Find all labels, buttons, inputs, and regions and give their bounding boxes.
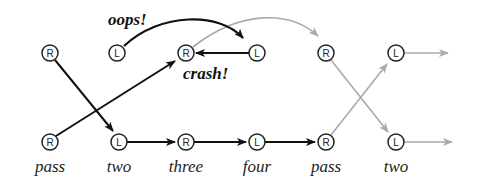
- node-letter: L: [114, 48, 120, 59]
- node-letter: R: [46, 48, 53, 59]
- message-passing-diagram: RLRLRL RpassLtwoRthreeLfourRpassLtwo oop…: [0, 0, 478, 187]
- word-label: three: [169, 157, 204, 176]
- node-letter: R: [182, 48, 189, 59]
- word-label: two: [384, 157, 409, 176]
- top_row-node-r: R: [318, 45, 334, 61]
- node-letter: L: [393, 137, 399, 148]
- node-letter: L: [254, 48, 260, 59]
- arrow-bottom-R5-to-top-L6: [331, 64, 387, 135]
- top_row-node-r: R: [178, 45, 194, 61]
- arrow-top-R5-to-bottom-L6: [331, 60, 388, 132]
- top_row-node-l: L: [249, 45, 265, 61]
- word-label: pass: [310, 157, 342, 176]
- node-letter: R: [322, 137, 329, 148]
- word-label: pass: [34, 157, 66, 176]
- top_row-node-l: L: [388, 45, 404, 61]
- bottom_row-node-r: R: [318, 134, 334, 150]
- bottom_row-node-r: R: [178, 134, 194, 150]
- node-letter: R: [46, 137, 53, 148]
- node-letter: L: [393, 48, 399, 59]
- oops-label: oops!: [108, 10, 147, 29]
- arrow-top-R1-to-bottom-L2: [55, 60, 113, 131]
- node-letter: L: [254, 137, 260, 148]
- word-label: four: [243, 157, 272, 176]
- node-letter: R: [322, 48, 329, 59]
- bottom_row-node-l: L: [388, 134, 404, 150]
- word-label: two: [107, 157, 132, 176]
- bottom_row-node-r: R: [42, 134, 58, 150]
- bottom_row-node-l: L: [249, 134, 265, 150]
- bottom_row-node-l: L: [111, 134, 127, 150]
- top_row-node-l: L: [109, 45, 125, 61]
- bottom-row-nodes: RpassLtwoRthreeLfourRpassLtwo: [34, 134, 408, 176]
- arrow-bottom-R1-to-top-R3: [56, 61, 175, 136]
- node-letter: R: [182, 137, 189, 148]
- crash-label: crash!: [183, 64, 228, 83]
- node-letter: L: [116, 137, 122, 148]
- future-edges: [193, 18, 452, 142]
- top_row-node-r: R: [42, 45, 58, 61]
